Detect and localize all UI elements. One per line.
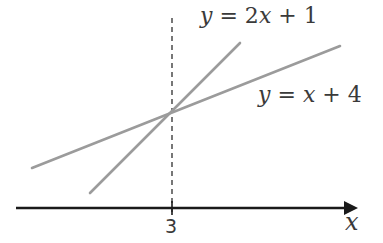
- line-x-plus-4: [32, 46, 340, 168]
- label-x-plus-4: y = x + 4: [258, 82, 362, 107]
- label-x-plus-4-eq: =: [277, 82, 295, 107]
- label-2x-plus-1-eq: = 2: [219, 3, 258, 28]
- label-2x-plus-1-rest: + 1: [278, 3, 317, 28]
- line-2x-plus-1: [90, 43, 240, 193]
- tick-label-3: 3: [165, 215, 177, 237]
- diagram: y = 2x + 1 y = x + 4 3 x: [0, 0, 383, 243]
- label-2x-plus-1-y: y: [200, 3, 212, 28]
- label-x-plus-4-y: y: [258, 82, 270, 107]
- diagram-canvas: [0, 0, 383, 243]
- label-x-plus-4-rest: + 4: [322, 82, 361, 107]
- x-axis-label: x: [345, 208, 359, 236]
- label-2x-plus-1: y = 2x + 1: [200, 3, 318, 28]
- label-2x-plus-1-x: x: [259, 3, 271, 28]
- label-x-plus-4-x: x: [303, 82, 315, 107]
